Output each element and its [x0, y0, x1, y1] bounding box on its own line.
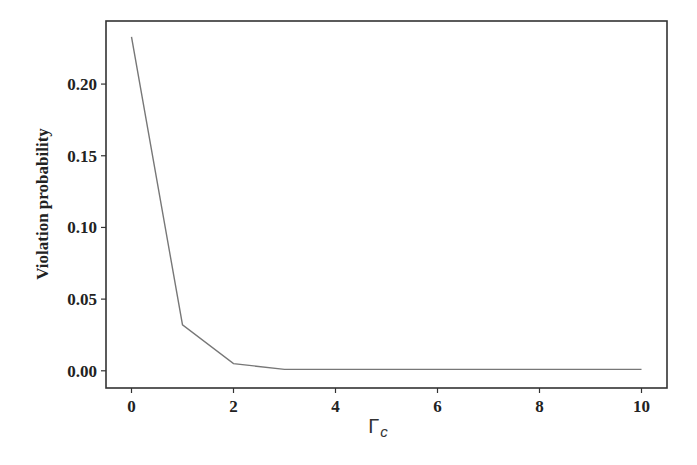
x-tick-label: 0: [127, 397, 136, 416]
x-tick-label: 8: [535, 397, 544, 416]
chart-background: [0, 0, 697, 465]
x-tick-label: 2: [229, 397, 238, 416]
y-tick-label: 0.15: [67, 147, 97, 166]
y-axis-title: Violation probability: [33, 128, 52, 280]
line-chart: 0246810 0.000.050.100.150.20 Violation p…: [0, 0, 697, 465]
y-tick-label: 0.20: [67, 75, 97, 94]
x-axis-title-subscript: c: [380, 423, 388, 440]
y-tick-label: 0.05: [67, 290, 97, 309]
x-axis-title-main: Γ: [368, 415, 379, 437]
x-tick-label: 10: [633, 397, 650, 416]
y-tick-label: 0.10: [67, 218, 97, 237]
x-tick-label: 6: [433, 397, 442, 416]
y-tick-label: 0.00: [67, 362, 97, 381]
x-tick-label: 4: [331, 397, 340, 416]
